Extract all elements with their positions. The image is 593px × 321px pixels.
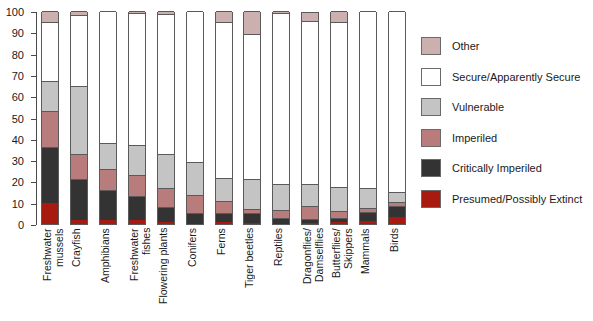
bar-segment[interactable] [302, 184, 318, 206]
bar-segment[interactable] [129, 175, 145, 196]
bar-stack[interactable] [128, 12, 146, 225]
bar-segment[interactable] [389, 11, 405, 192]
bar-column[interactable] [41, 12, 59, 225]
bar-segment[interactable] [273, 210, 289, 217]
bar-stack[interactable] [243, 12, 261, 225]
bar-segment[interactable] [244, 34, 260, 179]
bar-segment[interactable] [71, 11, 87, 15]
bar-segment[interactable] [244, 213, 260, 223]
bar-segment[interactable] [100, 220, 116, 224]
bar-segment[interactable] [216, 22, 232, 179]
bar-segment[interactable] [302, 223, 318, 224]
bar-stack[interactable] [272, 12, 290, 225]
bar-column[interactable] [70, 12, 88, 225]
bar-segment[interactable] [389, 202, 405, 206]
legend-item[interactable]: Imperiled [421, 123, 589, 154]
bar-segment[interactable] [331, 211, 347, 217]
bar-segment[interactable] [216, 178, 232, 200]
bar-segment[interactable] [71, 154, 87, 180]
bar-segment[interactable] [360, 208, 376, 212]
bar-stack[interactable] [330, 12, 348, 225]
bar-segment[interactable] [360, 11, 376, 188]
bar-segment[interactable] [273, 184, 289, 211]
bar-segment[interactable] [42, 147, 58, 202]
bar-segment[interactable] [129, 220, 145, 224]
bar-segment[interactable] [331, 22, 347, 187]
bar-column[interactable] [359, 12, 377, 225]
bar-segment[interactable] [360, 188, 376, 208]
bar-segment[interactable] [360, 212, 376, 221]
bar-stack[interactable] [157, 12, 175, 225]
bar-segment[interactable] [129, 145, 145, 175]
bar-segment[interactable] [302, 21, 318, 184]
bar-segment[interactable] [158, 154, 174, 188]
bar-segment[interactable] [42, 203, 58, 224]
bar-segment[interactable] [331, 187, 347, 211]
bar-segment[interactable] [244, 209, 260, 213]
bar-segment[interactable] [273, 218, 289, 224]
bar-column[interactable] [243, 12, 261, 225]
bar-segment[interactable] [100, 143, 116, 169]
bar-segment[interactable] [42, 111, 58, 147]
bar-segment[interactable] [187, 162, 203, 195]
bar-segment[interactable] [100, 169, 116, 190]
bar-segment[interactable] [158, 207, 174, 222]
legend-item[interactable]: Critically Imperiled [421, 153, 589, 184]
bar-column[interactable] [157, 12, 175, 225]
bar-column[interactable] [388, 12, 406, 225]
legend-item[interactable]: Secure/Apparently Secure [421, 62, 589, 93]
bar-segment[interactable] [331, 11, 347, 22]
bar-column[interactable] [301, 12, 319, 225]
bar-segment[interactable] [71, 179, 87, 219]
bar-segment[interactable] [331, 222, 347, 224]
bar-segment[interactable] [158, 222, 174, 224]
bar-segment[interactable] [302, 219, 318, 223]
bar-segment[interactable] [216, 11, 232, 22]
bar-segment[interactable] [273, 13, 289, 183]
bar-stack[interactable] [388, 12, 406, 225]
bar-segment[interactable] [389, 192, 405, 202]
bar-column[interactable] [215, 12, 233, 225]
bar-segment[interactable] [389, 217, 405, 224]
bar-segment[interactable] [331, 218, 347, 222]
bar-segment[interactable] [129, 196, 145, 219]
bar-segment[interactable] [187, 11, 203, 162]
bar-segment[interactable] [158, 14, 174, 154]
bar-segment[interactable] [71, 86, 87, 154]
bar-segment[interactable] [216, 213, 232, 222]
bar-stack[interactable] [215, 12, 233, 225]
bar-segment[interactable] [187, 213, 203, 224]
bar-segment[interactable] [42, 11, 58, 22]
bar-segment[interactable] [244, 223, 260, 224]
bar-column[interactable] [128, 12, 146, 225]
legend-item[interactable]: Vulnerable [421, 92, 589, 123]
bar-segment[interactable] [187, 195, 203, 213]
bar-stack[interactable] [359, 12, 377, 225]
legend-item[interactable]: Presumed/Possibly Extinct [421, 184, 589, 215]
bar-segment[interactable] [129, 11, 145, 13]
bar-segment[interactable] [389, 206, 405, 217]
bar-segment[interactable] [129, 13, 145, 145]
bar-segment[interactable] [158, 11, 174, 14]
bar-column[interactable] [272, 12, 290, 225]
bar-column[interactable] [186, 12, 204, 225]
bar-stack[interactable] [186, 12, 204, 225]
legend-item[interactable]: Other [421, 31, 589, 62]
bar-segment[interactable] [216, 222, 232, 224]
bar-segment[interactable] [100, 190, 116, 220]
bar-column[interactable] [99, 12, 117, 225]
bar-segment[interactable] [71, 220, 87, 224]
bar-segment[interactable] [158, 188, 174, 207]
bar-segment[interactable] [71, 15, 87, 85]
bar-segment[interactable] [302, 12, 318, 21]
bar-stack[interactable] [301, 12, 319, 225]
bar-segment[interactable] [244, 11, 260, 34]
bar-segment[interactable] [100, 11, 116, 143]
bar-segment[interactable] [302, 206, 318, 219]
bar-segment[interactable] [42, 81, 58, 111]
bar-segment[interactable] [244, 179, 260, 209]
bar-column[interactable] [330, 12, 348, 225]
bar-segment[interactable] [273, 11, 289, 13]
bar-stack[interactable] [41, 12, 59, 225]
bar-stack[interactable] [70, 12, 88, 225]
